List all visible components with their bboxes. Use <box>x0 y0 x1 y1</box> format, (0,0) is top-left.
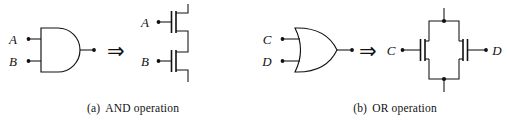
caption-or-text: OR operation <box>372 102 437 114</box>
caption-and-text: AND operation <box>105 102 179 114</box>
and-input-a-label: A <box>8 32 17 47</box>
equivalence-arrow-and: ⇒ <box>107 41 125 62</box>
and-input-b-terminal-dot <box>27 59 31 63</box>
caption-or-tag: (b) <box>353 102 367 114</box>
nmos-transistor-b <box>157 42 188 82</box>
nmos-d-gate-terminal-dot <box>484 48 488 52</box>
or-input-c-label: C <box>263 32 272 47</box>
equivalence-arrow-or: ⇒ <box>359 41 377 62</box>
or-output-terminal-dot <box>350 48 354 52</box>
parallel-top-junction-dot <box>442 19 446 23</box>
series-nmos-network <box>157 4 188 82</box>
caption-and-tag: (a) <box>87 102 100 114</box>
caption-and: (a)AND operation <box>6 102 260 114</box>
nmos-transistor-d <box>459 32 488 68</box>
or-gate-symbol <box>281 28 354 72</box>
and-diagram-svg: A B <box>0 0 254 100</box>
nmos-c-gate-terminal-dot <box>401 48 405 52</box>
or-input-d-terminal-dot <box>281 59 285 63</box>
and-gate-symbol <box>27 28 96 72</box>
nmos-a-source-wire <box>176 31 188 42</box>
nmos-b-drain-wire <box>176 42 188 52</box>
nmos-d-label: D <box>491 43 502 58</box>
caption-or: (b)OR operation <box>268 102 508 114</box>
nmos-a-label: A <box>140 15 149 30</box>
panel-and-operation: A B <box>0 0 254 136</box>
or-input-c-terminal-dot <box>281 37 285 41</box>
and-output-terminal-dot <box>92 48 96 52</box>
figure-root: A B <box>0 0 508 136</box>
parallel-nmos-network <box>401 8 488 92</box>
nmos-transistor-c <box>401 32 429 68</box>
nmos-transistor-a <box>157 4 188 42</box>
or-diagram-svg: C D <box>254 0 508 100</box>
parallel-bottom-junction-dot <box>442 77 446 81</box>
or-input-d-label: D <box>261 54 272 69</box>
panel-or-operation: C D <box>254 0 508 136</box>
and-input-a-terminal-dot <box>27 37 31 41</box>
or-gate-body <box>295 28 337 72</box>
nmos-b-source-wire <box>176 70 188 82</box>
nmos-b-gate-terminal-dot <box>157 59 161 63</box>
and-input-b-label: B <box>9 54 17 69</box>
nmos-a-gate-terminal-dot <box>157 20 161 24</box>
nmos-c-label: C <box>387 43 396 58</box>
nmos-a-drain-wire <box>176 4 188 13</box>
nmos-b-label: B <box>141 54 149 69</box>
and-gate-body <box>41 28 80 72</box>
